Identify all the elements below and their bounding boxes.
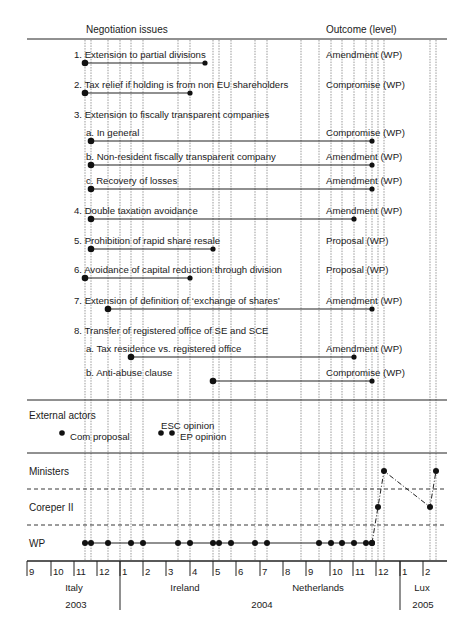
level-ministers-label: Ministers — [29, 466, 69, 477]
month-label: 8 — [285, 566, 290, 577]
issue-start-dot — [210, 378, 217, 385]
issue-start-dot — [82, 275, 89, 282]
wp-meeting-dot — [216, 540, 222, 546]
presidency-label: Ireland — [170, 582, 199, 593]
wp-meeting-dot — [187, 540, 193, 546]
issue-outcome: Amendment (WP) — [326, 151, 402, 162]
issue-outcome: Amendment (WP) — [326, 343, 402, 354]
external-event-dot — [169, 430, 175, 436]
level-wp-label: WP — [29, 538, 45, 549]
issue-outcome: Amendment (WP) — [326, 205, 402, 216]
issue-outcome: Amendment (WP) — [326, 295, 402, 306]
month-label: 10 — [332, 566, 343, 577]
month-label: 9 — [308, 566, 313, 577]
negotiation-issues-heading: Negotiation issues — [86, 24, 168, 35]
external-actors-label: External actors — [29, 410, 96, 421]
decision-levels: Ministers Coreper II WP — [29, 466, 73, 549]
external-event-label: Com proposal — [70, 431, 130, 442]
external-event-dot — [158, 430, 164, 436]
month-label: 5 — [215, 566, 220, 577]
issue-label: b. Non-resident fiscally transparent com… — [86, 151, 276, 162]
month-label: 9 — [29, 566, 34, 577]
issue-rows: 1. Extension to partial divisionsAmendme… — [74, 49, 405, 384]
negotiation-timeline-diagram: Negotiation issues Outcome (level) 1. Ex… — [0, 0, 470, 627]
wp-meeting-dot — [88, 540, 94, 546]
issue-start-dot — [88, 246, 95, 253]
issue-outcome: Proposal (WP) — [326, 235, 388, 246]
month-label: 2 — [425, 566, 430, 577]
issue-label: 6. Avoidance of capital reduction throug… — [74, 264, 282, 275]
issue-end-dot — [187, 275, 192, 280]
issue-outcome: Compromise (WP) — [326, 367, 405, 378]
year-label: 2003 — [65, 599, 86, 610]
issue-label: 1. Extension to partial divisions — [74, 49, 206, 60]
issue-start-dot — [88, 186, 95, 193]
month-label: 10 — [53, 566, 64, 577]
issue-outcome: Amendment (WP) — [326, 49, 402, 60]
level-coreper-label: Coreper II — [29, 502, 73, 513]
issue-outcome: Proposal (WP) — [326, 264, 388, 275]
month-label: 7 — [262, 566, 267, 577]
timeline-axis: 910111212345678910111212ItalyIrelandNeth… — [27, 561, 447, 610]
presidency-label: Netherlands — [292, 582, 344, 593]
escalation-dot — [369, 540, 375, 546]
presidency-label: Italy — [65, 582, 83, 593]
issue-outcome: Compromise (WP) — [326, 79, 405, 90]
wp-meeting-dot — [175, 540, 181, 546]
issue-end-dot — [351, 354, 356, 359]
wp-meeting-dot — [105, 540, 111, 546]
wp-meeting-dot — [363, 540, 369, 546]
wp-meeting-dot — [339, 540, 345, 546]
external-event-label: ESC opinion — [161, 420, 214, 431]
issue-start-dot — [105, 306, 112, 313]
escalation-dot — [375, 504, 381, 510]
issue-outcome: Compromise (WP) — [326, 127, 405, 138]
wp-meeting-dot — [82, 540, 88, 546]
wp-meeting-dot — [316, 540, 322, 546]
issue-end-dot — [369, 306, 374, 311]
outcome-heading: Outcome (level) — [326, 24, 397, 35]
issue-end-dot — [369, 378, 374, 383]
issue-start-dot — [88, 216, 95, 223]
issue-end-dot — [187, 90, 192, 95]
wp-meeting-dot — [140, 540, 146, 546]
issue-end-dot — [369, 138, 374, 143]
month-label: 6 — [238, 566, 243, 577]
issue-start-dot — [128, 354, 135, 361]
month-label: 11 — [76, 566, 86, 577]
wp-meeting-dot — [128, 540, 134, 546]
issue-start-dot — [88, 162, 95, 169]
wp-meeting-dot — [210, 540, 216, 546]
wp-meetings-track — [82, 540, 375, 546]
wp-meeting-dot — [351, 540, 357, 546]
issue-label: 7. Extension of definition of ‘exchange … — [74, 295, 280, 306]
issue-label: 4. Double taxation avoidance — [74, 205, 198, 216]
month-label: 11 — [355, 566, 365, 577]
month-label: 2 — [145, 566, 150, 577]
external-actors-section: External actors Com proposalESC opinionE… — [29, 410, 226, 442]
issue-label: 3. Extension to fiscally transparent com… — [74, 109, 269, 120]
issue-outcome: Amendment (WP) — [326, 175, 402, 186]
external-event-label: EP opinion — [180, 431, 226, 442]
issue-label: a. In general — [86, 127, 139, 138]
issue-label: 5. Prohibition of rapid share resale — [74, 235, 220, 246]
issue-start-dot — [82, 90, 89, 97]
issue-end-dot — [202, 60, 207, 65]
escalation-dot — [381, 468, 387, 474]
month-label: 12 — [99, 566, 110, 577]
issue-label: 8. Transfer of registered office of SE a… — [74, 325, 268, 336]
issue-end-dot — [369, 186, 374, 191]
year-label: 2004 — [251, 599, 273, 610]
escalation-dot — [433, 468, 439, 474]
issue-label: c. Recovery of losses — [86, 175, 177, 186]
month-label: 3 — [168, 566, 173, 577]
year-label: 2005 — [412, 599, 433, 610]
escalation-dot — [427, 504, 433, 510]
escalation-dashdot-line — [372, 471, 436, 543]
issue-start-dot — [82, 60, 89, 67]
issue-end-dot — [369, 162, 374, 167]
wp-meeting-dot — [252, 540, 258, 546]
month-label: 1 — [122, 566, 127, 577]
issue-end-dot — [351, 216, 356, 221]
month-label: 12 — [378, 566, 389, 577]
